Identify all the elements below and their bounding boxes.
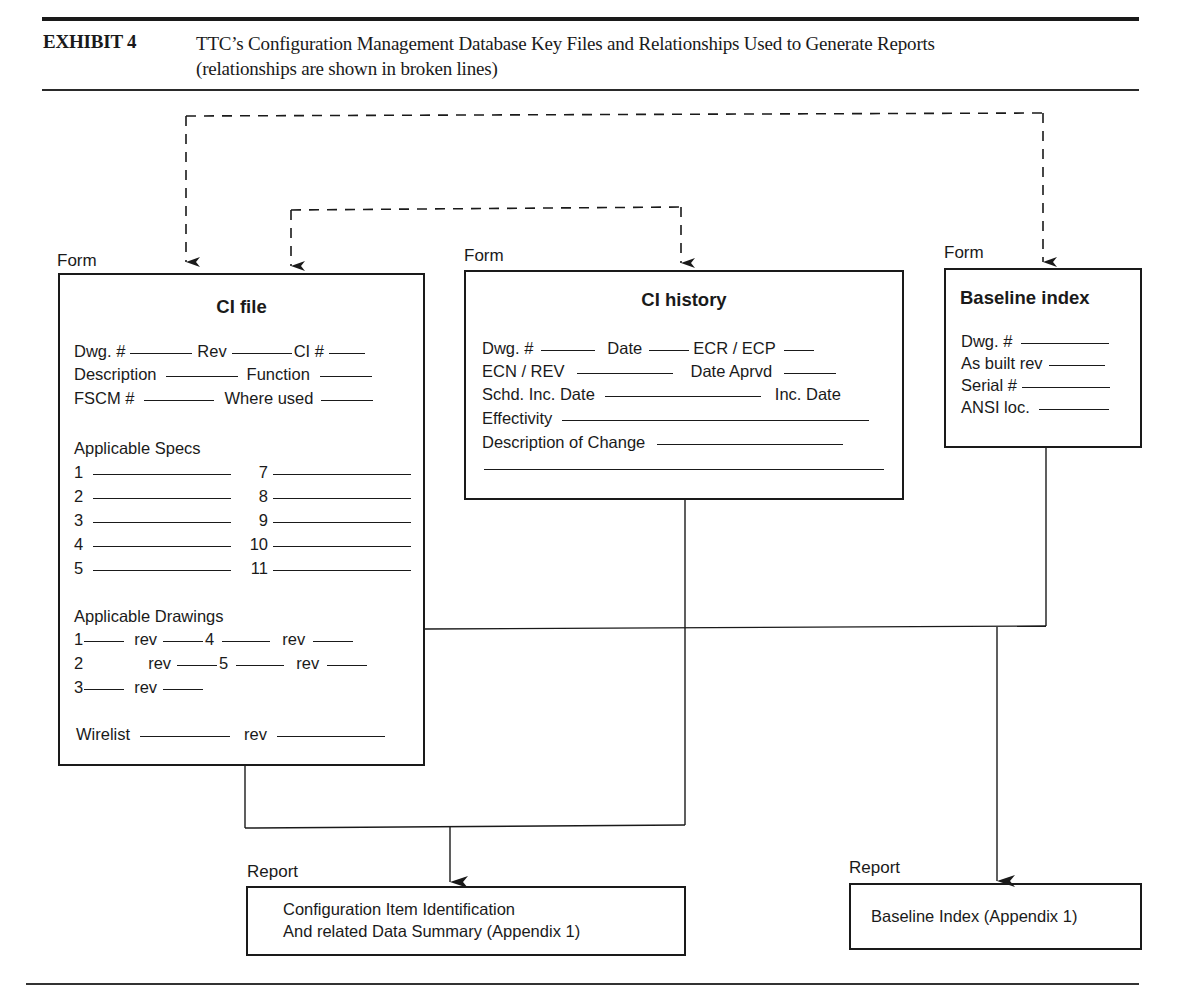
applicable-drawings-heading: Applicable Drawings — [74, 607, 224, 626]
field-blank-ecr-ecp[interactable] — [784, 349, 814, 351]
ci-report-text: Configuration Item Identification And re… — [283, 898, 580, 942]
baseline-report-line1: Baseline Index (Appendix 1) — [871, 905, 1077, 927]
field-label-ci: CI # — [294, 342, 324, 361]
spec-blank[interactable] — [273, 569, 411, 571]
ci-history-row-5: Description of Change — [482, 433, 848, 452]
field-blank-schd-inc-date[interactable] — [605, 395, 761, 397]
drawing-blank[interactable] — [236, 664, 284, 666]
baseline-index-form-label: Form — [944, 243, 984, 263]
field-blank-where-used[interactable] — [321, 399, 373, 401]
field-blank-ci[interactable] — [329, 352, 365, 354]
ci-identification-report: Configuration Item Identification And re… — [246, 886, 686, 956]
ci-history-form: CI history Dwg. # Date ECR / ECP ECN / R… — [464, 270, 904, 500]
ci-history-row-1: Dwg. # Date ECR / ECP — [482, 339, 819, 358]
drawing-row: 1 rev 4 rev — [74, 630, 358, 649]
field-blank-ansi-loc[interactable] — [1039, 408, 1109, 410]
field-label-dwg: Dwg. # — [74, 342, 125, 361]
spec-blank[interactable] — [273, 521, 411, 523]
field-blank-function[interactable] — [320, 375, 372, 377]
drawing-row: 3 rev — [74, 678, 208, 697]
ci-file-form-label: Form — [57, 251, 97, 271]
field-label-where-used: Where used — [225, 389, 314, 408]
field-label-description: Description — [74, 365, 157, 384]
ci-history-row-3: Schd. Inc. Date Inc. Date — [482, 385, 841, 404]
spec-row: 5 11 — [74, 559, 416, 578]
field-label-wirelist: Wirelist — [76, 725, 130, 744]
baseline-row-dwg: Dwg. # — [961, 332, 1114, 351]
baseline-report-label: Report — [849, 858, 900, 878]
field-blank-dwg[interactable] — [1021, 342, 1109, 344]
drawing-rev-blank[interactable] — [163, 640, 203, 642]
field-blank-as-built-rev[interactable] — [1049, 364, 1105, 366]
spec-blank[interactable] — [273, 497, 411, 499]
drawing-rev-blank[interactable] — [327, 664, 367, 666]
field-blank-fscm[interactable] — [144, 399, 214, 401]
baseline-index-title: Baseline index — [960, 287, 1090, 309]
drawing-row: 2 rev 5 rev — [74, 654, 372, 673]
baseline-index-form: Baseline index Dwg. # As built rev Seria… — [944, 268, 1142, 448]
spec-blank[interactable] — [93, 521, 231, 523]
ci-history-form-label: Form — [464, 246, 504, 266]
ci-file-row-description: Description Function — [74, 365, 377, 384]
ci-report-line1: Configuration Item Identification — [283, 898, 580, 920]
drawing-rev-blank[interactable] — [177, 664, 217, 666]
relationship-ci-file-baseline — [186, 113, 1043, 262]
field-blank-wirelist[interactable] — [140, 735, 230, 737]
ci-file-row-dwg: Dwg. # Rev CI # — [74, 342, 370, 361]
field-blank-ecn-rev[interactable] — [577, 372, 673, 374]
baseline-index-report: Baseline Index (Appendix 1) — [849, 883, 1142, 950]
baseline-row-ansi-loc: ANSI loc. — [961, 398, 1114, 417]
wirelist-row: Wirelist rev — [76, 725, 390, 744]
spec-row: 1 7 — [74, 463, 416, 482]
ci-history-title: CI history — [466, 289, 902, 311]
baseline-row-serial: Serial # — [961, 376, 1115, 395]
spec-blank[interactable] — [273, 473, 411, 475]
field-blank-dwg[interactable] — [130, 352, 192, 354]
field-label-function: Function — [247, 365, 310, 384]
field-blank-description-of-change[interactable] — [657, 443, 843, 445]
drawing-rev-blank[interactable] — [313, 640, 353, 642]
field-blank-description[interactable] — [166, 375, 238, 377]
spec-blank[interactable] — [93, 569, 231, 571]
field-blank-effectivity[interactable] — [562, 419, 869, 421]
ci-file-row-fscm: FSCM # Where used — [74, 389, 378, 408]
baseline-row-as-built-rev: As built rev — [961, 354, 1110, 373]
ci-report-label: Report — [247, 862, 298, 882]
field-blank-dwg[interactable] — [541, 349, 595, 351]
field-label-fscm: FSCM # — [74, 389, 135, 408]
spec-blank[interactable] — [273, 545, 411, 547]
drawing-blank[interactable] — [84, 688, 124, 690]
spec-row: 3 9 — [74, 511, 416, 530]
field-blank-date[interactable] — [649, 349, 689, 351]
ci-file-title: CI file — [60, 296, 423, 318]
field-blank-serial[interactable] — [1022, 386, 1110, 388]
drawing-blank[interactable] — [84, 640, 124, 642]
spec-blank[interactable] — [93, 497, 231, 499]
field-blank-rev[interactable] — [232, 352, 292, 354]
field-label-wirelist-rev: rev — [244, 725, 267, 744]
ci-file-form: CI file Dwg. # Rev CI # Description Func… — [58, 273, 425, 766]
ci-history-row-4: Effectivity — [482, 409, 874, 428]
ci-history-row-2: ECN / REV Date Aprvd — [482, 362, 841, 381]
field-label-rev: Rev — [197, 342, 226, 361]
spec-blank[interactable] — [93, 473, 231, 475]
ci-report-line2: And related Data Summary (Appendix 1) — [283, 920, 580, 942]
field-blank-wirelist-rev[interactable] — [277, 735, 385, 737]
field-blank-description-continued[interactable] — [484, 469, 884, 470]
drawing-blank[interactable] — [222, 640, 270, 642]
applicable-specs-heading: Applicable Specs — [74, 439, 201, 458]
spec-row: 4 10 — [74, 535, 416, 554]
drawing-rev-blank[interactable] — [163, 688, 203, 690]
bottom-rule — [26, 983, 1139, 985]
spec-blank[interactable] — [93, 545, 231, 547]
field-blank-date-aprvd[interactable] — [784, 372, 836, 374]
spec-row: 2 8 — [74, 487, 416, 506]
